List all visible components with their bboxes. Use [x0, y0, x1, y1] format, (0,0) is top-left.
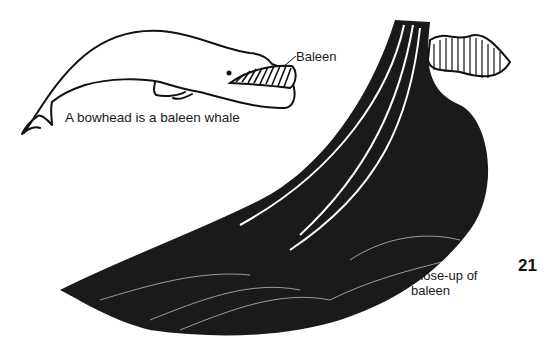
baleen-closeup-caption: Close-up of baleen	[411, 268, 477, 298]
caption-line-2: baleen	[411, 283, 477, 298]
baleen-callout-label: Baleen	[296, 49, 336, 64]
whale-mouth-baleen	[230, 66, 296, 88]
page-number: 21	[518, 256, 537, 276]
caption-line-1: Close-up of	[411, 268, 477, 283]
whale-eye	[227, 71, 232, 76]
whale-caption: A bowhead is a baleen whale	[65, 110, 240, 125]
